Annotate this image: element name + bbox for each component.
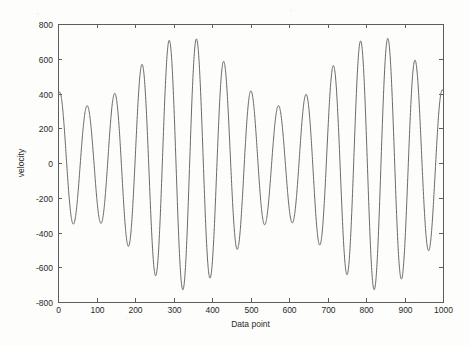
velocity-line-chart: 01002003004005006007008009001000-800-600…	[0, 0, 469, 346]
axes-layer	[58, 24, 444, 303]
x-tick-label: 100	[90, 305, 104, 315]
data-curve-layer	[58, 38, 443, 289]
plot-box-border	[59, 25, 444, 303]
y-tick-label: -600	[36, 263, 53, 273]
figure-canvas: 01002003004005006007008009001000-800-600…	[0, 0, 469, 346]
y-axis-label: velocity	[16, 148, 26, 177]
x-tick-label: 500	[244, 305, 258, 315]
y-tick-label: -400	[36, 229, 53, 239]
x-tick-label: 700	[321, 305, 335, 315]
y-tick-label: -200	[36, 194, 53, 204]
x-axis-label: Data point	[231, 319, 270, 329]
x-tick-label: 900	[398, 305, 412, 315]
axis-labels-layer: 01002003004005006007008009001000-800-600…	[16, 20, 453, 330]
y-tick-label: 400	[39, 90, 53, 100]
x-tick-label: 0	[56, 305, 61, 315]
x-tick-label: 800	[359, 305, 373, 315]
y-tick-label: 200	[39, 124, 53, 134]
x-tick-label: 200	[128, 305, 142, 315]
x-tick-label: 1000	[434, 305, 453, 315]
x-tick-label: 300	[167, 305, 181, 315]
y-tick-label: 600	[39, 55, 53, 65]
x-tick-label: 400	[205, 305, 219, 315]
y-tick-label: 0	[48, 159, 53, 169]
x-tick-label: 600	[282, 305, 296, 315]
y-tick-label: 800	[39, 20, 53, 30]
y-tick-label: -800	[36, 298, 53, 308]
velocity-data-curve	[58, 38, 443, 289]
